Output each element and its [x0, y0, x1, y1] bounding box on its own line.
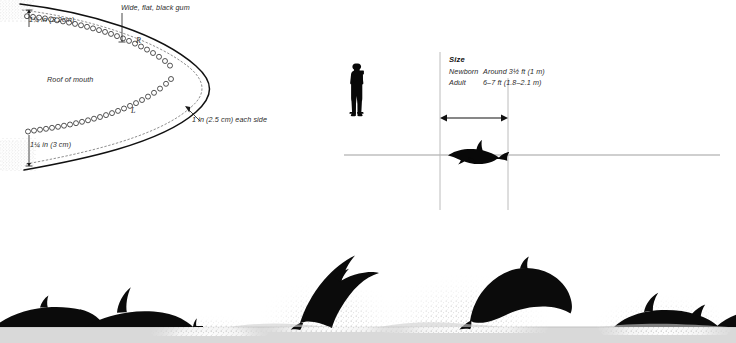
spray-field-right	[590, 285, 736, 335]
size-row-adult-label: Adult	[449, 78, 483, 87]
seascape-svg	[0, 215, 736, 343]
upper-gap-label: 1¼ in (3.2cm)	[29, 16, 74, 24]
size-row-newborn: NewbornAround 3½ ft (1 m)	[449, 67, 579, 76]
human-scale-silhouette	[349, 64, 364, 117]
size-row-newborn-label: Newborn	[449, 67, 483, 76]
size-row-adult: Adult6–7 ft (1.8–2.1 m)	[449, 78, 579, 87]
tooth-socket-row-lower	[26, 77, 174, 135]
mouth-diagram-svg	[0, 0, 300, 185]
figure-canvas: 1¼ in (3.2cm) 1¼ in (3 cm) Wide, flat, b…	[0, 0, 736, 343]
left-row-label: L	[131, 106, 135, 115]
size-row-newborn-value: Around 3½ ft (1 m)	[483, 67, 545, 76]
mouth-diagram: 1¼ in (3.2cm) 1¼ in (3 cm) Wide, flat, b…	[0, 0, 300, 185]
each-side-label: 1 in (2.5 cm) each side	[192, 116, 267, 124]
dolphin-porpoising-left	[85, 287, 193, 327]
roof-of-mouth-label: Roof of mouth	[47, 76, 93, 84]
right-row-label: R	[136, 36, 141, 45]
size-panel: Size NewbornAround 3½ ft (1 m) Adult6–7 …	[330, 50, 736, 215]
lower-gap-label: 1¼ in (3 cm)	[30, 141, 71, 149]
seascape-scene	[0, 215, 736, 343]
gum-label: Wide, flat, black gum	[121, 4, 190, 12]
size-heading: Size	[449, 55, 579, 64]
size-text-block: Size NewbornAround 3½ ft (1 m) Adult6–7 …	[449, 55, 579, 89]
dolphin-scale-silhouette	[448, 140, 509, 165]
size-row-adult-value: 6–7 ft (1.8–2.1 m)	[483, 78, 542, 87]
dolphin-surfacing-far-left	[0, 295, 105, 327]
dimension-arrow	[440, 114, 508, 121]
